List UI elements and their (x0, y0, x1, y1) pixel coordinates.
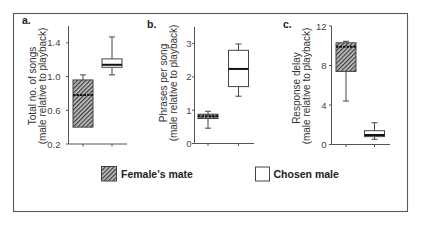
iqr-box (198, 114, 218, 118)
legend-item-females-mate: Female's mate (102, 167, 194, 182)
figure: a. Total no. of songs (male relative to … (0, 0, 422, 228)
y-tick-label: 0.2 (47, 139, 60, 150)
y-tick-label: 0 (186, 138, 191, 149)
y-tick-label: 8 (321, 60, 326, 71)
iqr-box (73, 80, 93, 127)
y-tick-label: 12 (316, 21, 327, 32)
panel-label: c. (283, 18, 292, 30)
y-tick-label: 0.6 (47, 105, 60, 116)
y-tick-label: 1.0 (47, 71, 60, 82)
y-axis-title-line-2: (male relative to playback) (37, 28, 48, 145)
iqr-box (336, 43, 356, 72)
y-axis-title-line-2: (male relative to playback) (301, 28, 312, 145)
y-tick-label: 0 (321, 139, 326, 150)
y-axis-title-line-2: (male relative to playback) (168, 25, 179, 142)
panel-label: b. (147, 18, 156, 30)
legend-swatch-open (256, 167, 270, 181)
legend-item-chosen-male: Chosen male (256, 167, 340, 181)
legend-swatch-hatched (102, 167, 117, 182)
legend-label: Chosen male (274, 168, 340, 180)
iqr-box (102, 59, 122, 67)
y-tick-label: 1.4 (47, 37, 60, 48)
legend-label: Female's mate (121, 168, 193, 180)
panel-label: a. (22, 14, 31, 26)
y-tick-label: 4 (321, 100, 326, 111)
y-tick-label: 1 (186, 105, 191, 116)
y-tick-label: 3 (186, 38, 191, 49)
y-tick-label: 2 (186, 71, 191, 82)
